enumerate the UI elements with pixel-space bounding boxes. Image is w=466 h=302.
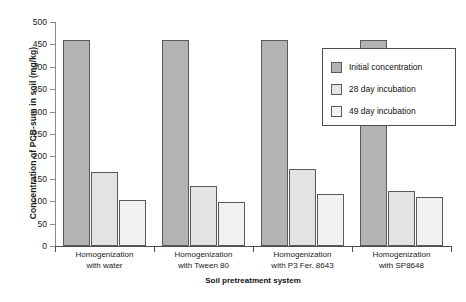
category-label-line: Homogenization	[55, 250, 154, 261]
y-tick-label: 200	[33, 151, 47, 161]
legend: Initial concentration 28 day incubation …	[322, 48, 456, 126]
x-axis-category-label: Homogenizationwith Tween 80	[154, 250, 253, 271]
category-label-line: Homogenization	[253, 250, 352, 261]
category-label-line: with Tween 80	[154, 261, 253, 272]
y-tick-label: 250	[33, 129, 47, 139]
bar	[91, 172, 118, 246]
legend-swatch-icon	[331, 106, 342, 117]
x-axis-category-labels: Homogenizationwith waterHomogenizationwi…	[55, 250, 451, 278]
bar	[388, 191, 415, 246]
legend-label: Initial concentration	[349, 62, 422, 72]
category-label-line: Homogenization	[352, 250, 451, 261]
bar	[289, 169, 316, 246]
y-tick-label: 300	[33, 107, 47, 117]
legend-item-initial-concentration: Initial concentration	[331, 56, 449, 78]
category-label-line: Homogenization	[154, 250, 253, 261]
bar-group	[55, 22, 154, 246]
x-axis-separator	[451, 246, 452, 252]
bar	[119, 200, 146, 246]
legend-item-49-day-incubation: 49 day incubation	[331, 100, 449, 122]
y-tick-label: 350	[33, 84, 47, 94]
bar	[317, 194, 344, 246]
x-axis-category-label: Homogenizationwith SP8648	[352, 250, 451, 271]
legend-item-28-day-incubation: 28 day incubation	[331, 78, 449, 100]
legend-swatch-icon	[331, 62, 342, 73]
bar	[190, 186, 217, 246]
category-label-line: with P3 Fer. 8643	[253, 261, 352, 272]
category-label-line: with water	[55, 261, 154, 272]
x-axis-category-label: Homogenizationwith P3 Fer. 8643	[253, 250, 352, 271]
y-tick-label: 500	[33, 17, 47, 27]
category-label-line: with SP8648	[352, 261, 451, 272]
legend-label: 28 day incubation	[349, 84, 416, 94]
legend-label: 49 day incubation	[349, 106, 416, 116]
legend-swatch-icon	[331, 84, 342, 95]
x-axis-category-label: Homogenizationwith water	[55, 250, 154, 271]
y-tick-label: 50	[38, 219, 47, 229]
x-axis-title: Soil pretreatment system	[55, 276, 451, 285]
y-tick-label: 100	[33, 196, 47, 206]
bar	[63, 40, 90, 246]
y-tick-label: 0	[42, 241, 47, 251]
bar-chart: Concentration of PCB-sum in soil (mg/kg)…	[0, 0, 466, 302]
bar	[218, 202, 245, 246]
bar-group	[154, 22, 253, 246]
bar	[261, 40, 288, 246]
y-tick-label: 400	[33, 62, 47, 72]
y-tick-label: 150	[33, 174, 47, 184]
y-tick-label: 450	[33, 39, 47, 49]
bar	[162, 40, 189, 246]
bar	[416, 197, 443, 246]
